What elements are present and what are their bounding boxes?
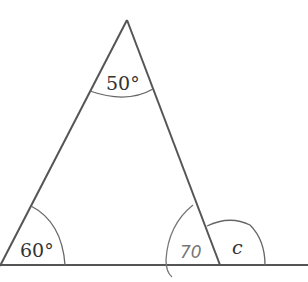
bottom-right-angle-arc <box>166 205 193 277</box>
bottom-right-angle-label: 70 <box>180 244 202 261</box>
apex-angle-label: 50° <box>106 74 140 93</box>
triangle-diagram: 50° 60° 70 c <box>0 0 308 282</box>
exterior-angle-label: c <box>232 238 243 257</box>
left-side <box>0 20 127 266</box>
bottom-left-angle-label: 60° <box>20 241 54 260</box>
